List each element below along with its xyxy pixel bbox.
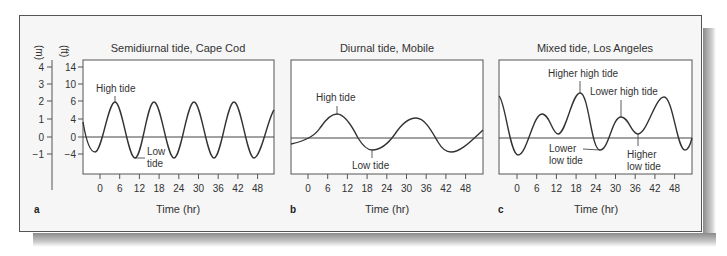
panel-c-higher-low-tide-label-2: low tide [627,161,661,172]
panel-b-letter: b [290,204,296,215]
panel-a-plot-area [83,60,274,174]
panel-c-lower-low-tide-label-1: Lower [549,143,577,154]
y-tick-m: 2 [38,96,44,107]
x-tick-label: 6 [534,183,540,194]
x-tick-label: 12 [134,183,146,194]
panel-c: Mixed tide, Los Angeles Higher high tide… [498,42,692,215]
panel-b-plot-area [291,60,483,174]
y-tick-ft: 0 [70,132,76,143]
tide-figure: (m) 43210−1 (ft) 1410640−4 Semidiurnal t… [0,0,727,256]
panel-c-title: Mixed tide, Los Angeles [537,42,654,54]
x-tick-label: 30 [610,183,622,194]
panel-a-letter: a [34,204,40,215]
panel-c-lower-high-tide-label: Lower high tide [590,86,658,97]
x-tick-label: 48 [460,183,472,194]
y-tick-ft: 6 [70,96,76,107]
x-tick-label: 24 [173,183,185,194]
x-tick-label: 42 [440,183,452,194]
x-tick-label: 36 [421,183,433,194]
y-tick-m: −1 [33,149,45,160]
panel-c-lower-low-tide-label-2: low tide [549,155,583,166]
x-tick-label: 0 [305,183,311,194]
x-tick-label: 30 [193,183,205,194]
x-tick-label: 24 [590,183,602,194]
y-tick-ft: 10 [65,79,77,90]
y-axis-meters: (m) 43210−1 [33,45,52,190]
x-tick-label: 48 [669,183,681,194]
x-tick-label: 6 [325,183,331,194]
x-tick-label: 18 [362,183,374,194]
panel-b-title: Diurnal tide, Mobile [340,42,434,54]
panel-b-high-tide-label: High tide [316,92,356,103]
x-tick-label: 6 [117,183,123,194]
panel-a-high-tide-label: High tide [96,83,136,94]
x-tick-label: 36 [630,183,642,194]
x-tick-label: 12 [342,183,354,194]
panel-c-xlabel: Time (hr) [574,203,618,215]
x-tick-label: 24 [381,183,393,194]
panel-a-xlabel: Time (hr) [156,203,200,215]
y-tick-ft: −4 [65,149,77,160]
y-tick-m: 0 [38,132,44,143]
panel-b-xlabel: Time (hr) [365,203,409,215]
panel-a-low-tide-label-2: tide [147,158,164,169]
x-tick-label: 12 [551,183,563,194]
x-tick-label: 0 [97,183,103,194]
panel-b-low-tide-label: Low tide [352,160,390,171]
x-tick-label: 42 [232,183,244,194]
x-tick-label: 18 [154,183,166,194]
x-tick-label: 0 [514,183,520,194]
panel-c-higher-high-tide-label: Higher high tide [548,68,618,79]
y-axis-m-unit: (m) [34,45,45,60]
panel-b: Diurnal tide, Mobile High tide Low tide … [290,42,483,215]
y-tick-m: 4 [38,62,44,73]
y-tick-m: 1 [38,114,44,125]
y-tick-ft: 4 [70,114,76,125]
x-tick-label: 48 [252,183,264,194]
x-tick-label: 18 [571,183,583,194]
x-tick-label: 30 [401,183,413,194]
panel-a-title: Semidiurnal tide, Cape Cod [111,42,246,54]
y-axis-feet: (ft) 1410640−4 [59,45,83,160]
y-tick-ft: 14 [65,62,77,73]
x-tick-label: 36 [213,183,225,194]
x-tick-label: 42 [649,183,661,194]
panel-a-low-tide-label-1: Low [147,146,166,157]
panel-c-higher-low-tide-label-1: Higher [627,149,657,160]
panel-c-letter: c [498,204,504,215]
y-axis-ft-unit: (ft) [59,45,70,57]
y-tick-m: 3 [38,79,44,90]
